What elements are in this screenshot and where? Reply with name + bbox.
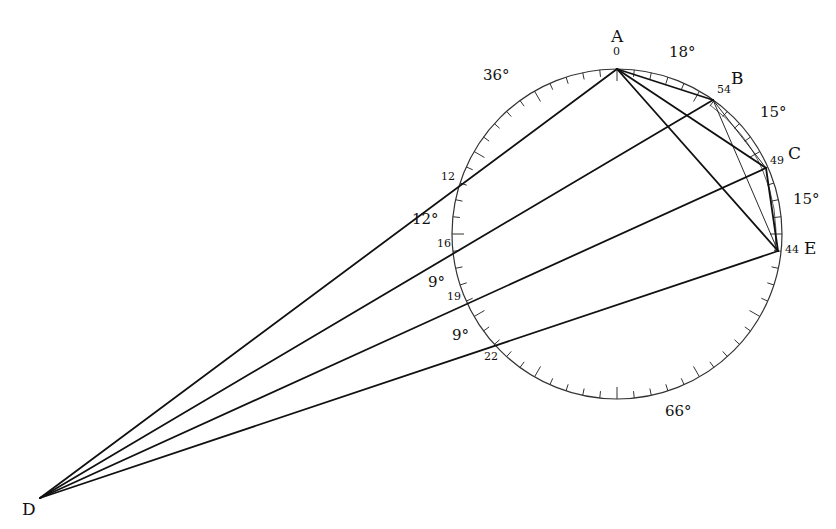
minor-tick <box>566 384 568 391</box>
minor-tick <box>456 200 463 201</box>
scale-number-16: 16 <box>437 238 451 249</box>
minor-tick <box>710 362 714 368</box>
minor-tick <box>650 73 651 80</box>
minor-tick <box>734 340 739 345</box>
point-label-C: C <box>788 145 801 162</box>
minor-tick <box>507 351 512 356</box>
angle-label: 9° <box>428 275 445 290</box>
angle-label: 12° <box>412 212 439 227</box>
scale-number-22: 22 <box>484 351 498 362</box>
minor-tick <box>484 137 490 141</box>
major-tick <box>535 91 541 101</box>
minor-tick <box>634 391 635 398</box>
segment-DB <box>40 100 713 498</box>
minor-tick <box>666 77 668 84</box>
angle-label: 36° <box>483 68 510 83</box>
minor-tick <box>520 362 524 368</box>
angle-label: 15° <box>793 192 820 207</box>
minor-tick <box>634 70 635 77</box>
minor-tick <box>460 283 467 285</box>
minor-tick <box>681 83 684 89</box>
angle-label: 9° <box>452 328 469 343</box>
minor-tick <box>600 391 601 398</box>
geometry-figure <box>0 0 836 529</box>
scale-circle-outline <box>452 69 782 399</box>
minor-tick <box>566 77 568 84</box>
scale-number-0: 0 <box>613 46 620 57</box>
minor-tick <box>494 124 499 129</box>
segment-BE <box>713 100 778 251</box>
segment-BC <box>713 100 766 168</box>
minor-tick <box>466 298 472 301</box>
angle-label: 15° <box>760 105 787 120</box>
point-label-B: B <box>731 70 744 87</box>
segment-DC <box>40 168 766 498</box>
major-tick <box>535 367 541 377</box>
minor-tick <box>507 111 512 116</box>
minor-tick <box>761 298 767 301</box>
major-tick <box>694 367 700 377</box>
scale-number-54: 54 <box>717 84 731 95</box>
minor-tick <box>550 83 553 89</box>
scale-number-19: 19 <box>447 291 461 302</box>
scale-number-12: 12 <box>441 171 455 182</box>
major-tick <box>474 311 484 317</box>
segment-DE <box>40 251 778 498</box>
minor-tick <box>745 327 751 331</box>
minor-tick <box>484 327 490 331</box>
minor-tick <box>456 267 463 268</box>
scale-number-49: 49 <box>770 155 784 166</box>
segment-DA <box>40 69 617 498</box>
point-label-D: D <box>22 501 36 518</box>
minor-tick <box>767 283 774 285</box>
minor-tick <box>600 70 601 77</box>
minor-tick <box>772 267 779 268</box>
major-tick <box>694 91 700 101</box>
minor-tick <box>723 351 728 356</box>
minor-tick <box>466 167 472 170</box>
major-tick <box>474 152 484 158</box>
point-label-A: A <box>611 28 623 45</box>
minor-tick <box>650 389 651 396</box>
minor-tick <box>520 101 524 107</box>
construction-lines <box>40 69 778 498</box>
minor-tick <box>681 378 684 384</box>
angle-label: 18° <box>669 45 696 60</box>
minor-tick <box>583 389 584 396</box>
point-label-E: E <box>804 240 816 257</box>
diagram-canvas: A0B54C49E44D1216192236°18°15°15°12°9°9°6… <box>0 0 836 529</box>
minor-tick <box>453 217 460 218</box>
minor-tick <box>583 73 584 80</box>
minor-tick <box>666 384 668 391</box>
scale-ticks <box>452 69 782 399</box>
minor-tick <box>550 378 553 384</box>
cropped-header-strip <box>0 0 836 4</box>
angle-label: 66° <box>665 404 692 419</box>
scale-circle <box>452 69 782 399</box>
scale-number-44: 44 <box>785 244 799 255</box>
major-tick <box>750 311 760 317</box>
